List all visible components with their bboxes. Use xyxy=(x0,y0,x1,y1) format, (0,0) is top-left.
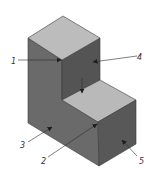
label-4: 4 xyxy=(137,53,142,62)
label-5: 5 xyxy=(139,157,144,166)
label-2: 2 xyxy=(41,157,46,166)
label-1: 1 xyxy=(11,57,16,66)
isometric-block-diagram: 1 4 3 2 5 xyxy=(0,0,154,181)
label-3: 3 xyxy=(20,141,25,150)
